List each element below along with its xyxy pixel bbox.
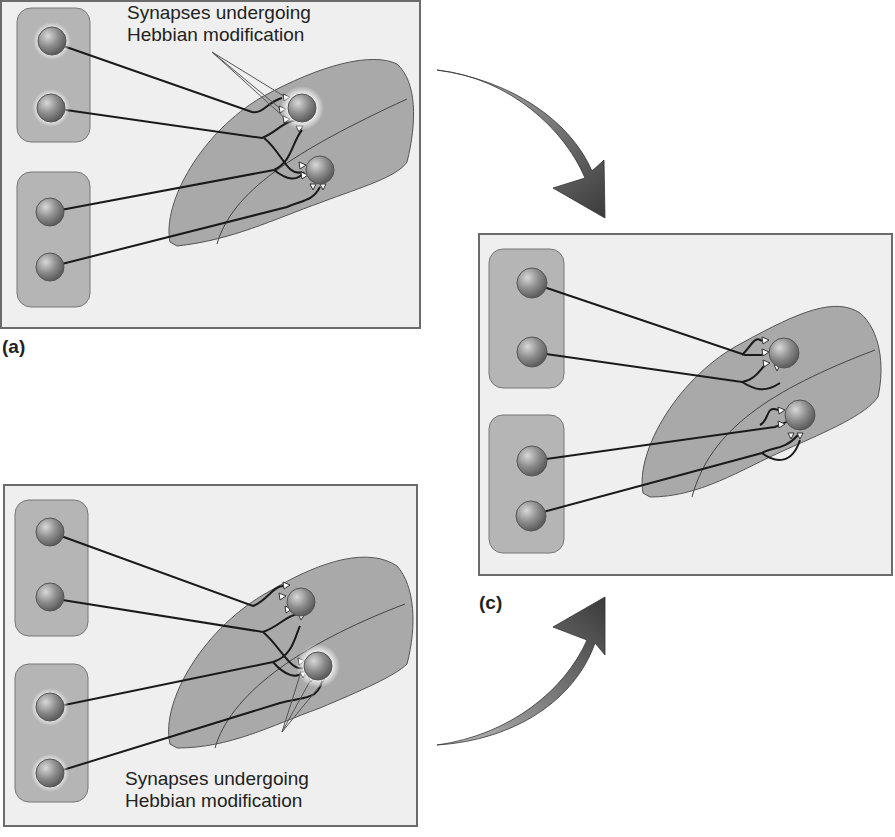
input-group-bottom bbox=[17, 172, 90, 307]
input-neuron bbox=[36, 198, 64, 226]
input-neuron bbox=[517, 446, 547, 476]
neuron bbox=[769, 338, 799, 368]
panel-a: Synapses undergoing Hebbian modification bbox=[0, 0, 421, 329]
input-neuron bbox=[36, 518, 64, 546]
panel-label-a: (a) bbox=[2, 336, 25, 358]
input-neuron bbox=[36, 759, 64, 787]
panel-a-diagram bbox=[2, 2, 423, 331]
input-neuron bbox=[37, 94, 65, 122]
input-neuron bbox=[36, 583, 64, 611]
neuron bbox=[785, 400, 815, 430]
input-neuron bbox=[517, 337, 547, 367]
neuron-active bbox=[304, 652, 332, 680]
caption-b: Synapses undergoing Hebbian modification bbox=[125, 768, 309, 812]
input-neuron bbox=[516, 501, 546, 531]
caption-a: Synapses undergoing Hebbian modification bbox=[127, 2, 311, 46]
cortical-region bbox=[169, 557, 413, 748]
neuron-active bbox=[288, 94, 316, 122]
neuron bbox=[287, 588, 315, 616]
neuron bbox=[306, 156, 334, 184]
curved-arrow-up-icon bbox=[437, 597, 605, 745]
cortical-region bbox=[642, 306, 881, 497]
input-group-bottom bbox=[489, 415, 564, 553]
panel-label-c: (c) bbox=[479, 592, 502, 614]
panel-b: Synapses undergoing Hebbian modification bbox=[3, 484, 418, 827]
input-neuron bbox=[38, 27, 66, 55]
input-neuron bbox=[517, 268, 547, 298]
input-neuron bbox=[36, 253, 64, 281]
panel-c bbox=[478, 233, 893, 576]
input-neuron bbox=[36, 693, 64, 721]
panel-c-diagram bbox=[480, 235, 895, 578]
